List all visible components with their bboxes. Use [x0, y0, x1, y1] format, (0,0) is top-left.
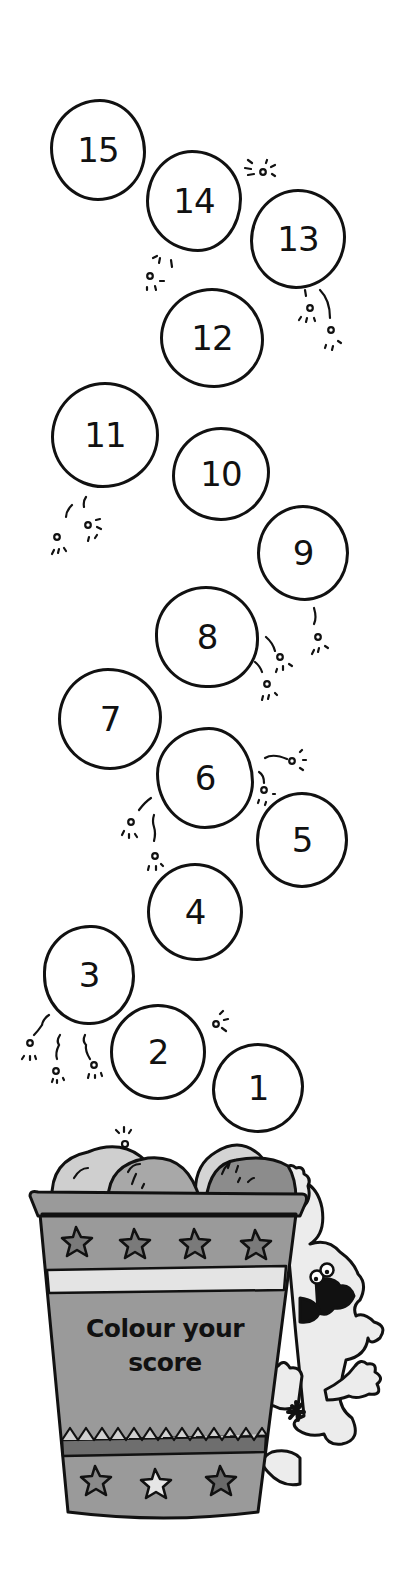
balloon-number: 14 — [173, 184, 214, 218]
sparkle-icon — [116, 1127, 131, 1147]
sparkle-icon — [22, 1015, 102, 1083]
score-balloon-1[interactable]: 1 — [212, 1043, 304, 1133]
balloon-number: 7 — [100, 702, 121, 736]
score-worksheet: 15 14 13 12 11 10 9 8 7 6 5 4 3 2 1 — [0, 0, 406, 1569]
balloon-number: 2 — [148, 1035, 169, 1069]
score-balloon-9[interactable]: 9 — [257, 505, 349, 601]
balloon-number: 13 — [277, 222, 318, 256]
balloon-number: 15 — [77, 133, 118, 167]
instruction-line-1: Colour your — [60, 1312, 270, 1346]
instruction-line-2: score — [60, 1346, 270, 1380]
score-balloon-14[interactable]: 14 — [146, 150, 242, 252]
sparkle-icon — [245, 160, 275, 176]
sparkle-icon — [255, 637, 292, 700]
sparkle-icon — [213, 1011, 228, 1031]
balloon-number: 9 — [293, 536, 314, 570]
balloon-number: 12 — [191, 321, 232, 355]
sparkle-icon — [52, 497, 101, 554]
balloon-number: 4 — [185, 895, 206, 929]
sparkle-icon — [299, 290, 341, 350]
score-balloon-2[interactable]: 2 — [110, 1004, 206, 1100]
sparkle-icon — [122, 798, 163, 870]
popcorn-icon — [52, 1145, 296, 1200]
score-balloon-4[interactable]: 4 — [147, 863, 243, 961]
score-balloon-11[interactable]: 11 — [51, 382, 159, 488]
score-balloon-5[interactable]: 5 — [256, 792, 348, 888]
balloon-number: 6 — [195, 761, 216, 795]
balloon-number: 5 — [292, 823, 313, 857]
sparkle-icon — [147, 256, 172, 290]
balloon-number: 8 — [197, 620, 218, 654]
score-balloon-15[interactable]: 15 — [50, 99, 146, 201]
balloon-number: 11 — [84, 418, 125, 452]
score-balloon-10[interactable]: 10 — [172, 427, 270, 521]
instruction-text: Colour your score — [60, 1312, 270, 1380]
balloon-number: 10 — [200, 457, 241, 491]
score-balloon-3[interactable]: 3 — [43, 925, 135, 1025]
balloon-number: 3 — [79, 958, 100, 992]
score-balloon-13[interactable]: 13 — [250, 189, 346, 289]
balloon-number: 1 — [248, 1071, 269, 1105]
score-balloon-12[interactable]: 12 — [160, 288, 264, 388]
dog-icon — [259, 1165, 383, 1484]
score-balloon-8[interactable]: 8 — [155, 586, 259, 688]
sparkle-icon — [312, 608, 328, 654]
score-balloon-7[interactable]: 7 — [58, 668, 162, 770]
score-balloon-6[interactable]: 6 — [156, 727, 254, 829]
